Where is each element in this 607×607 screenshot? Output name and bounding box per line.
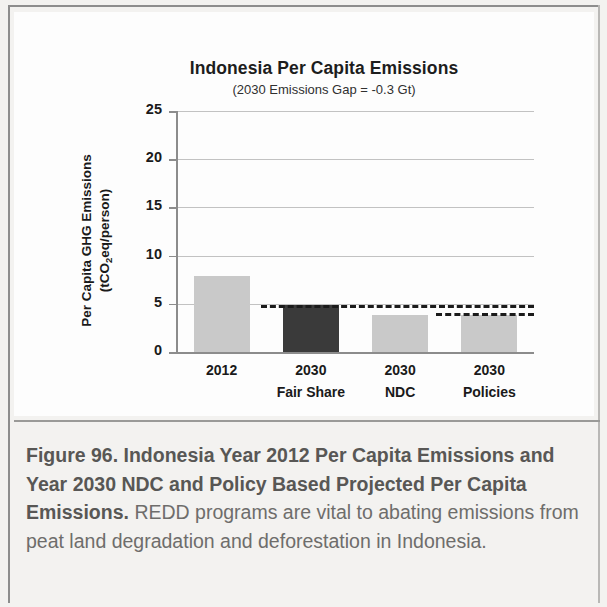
x-label-0-line-0: 2012 [177, 360, 266, 382]
x-label-2-line-0: 2030 [356, 360, 445, 382]
x-label-0: 2012 [177, 360, 266, 382]
chart-panel: Indonesia Per Capita Emissions (2030 Emi… [14, 12, 594, 416]
x-label-3-line-0: 2030 [445, 360, 534, 382]
y-tick-label-25: 25 [122, 101, 162, 117]
reference-line-policies-level [436, 313, 534, 316]
x-label-1-line-1: Fair Share [266, 382, 355, 404]
y-axis-units-post: eq/person) [98, 189, 113, 258]
page-frame-right [598, 5, 600, 603]
page-frame-left [8, 5, 10, 603]
x-label-1: 2030Fair Share [266, 360, 355, 403]
chart-subtitle: (2030 Emissions Gap = -0.3 Gt) [124, 82, 524, 97]
y-axis-units-subscript: 2 [103, 258, 114, 263]
x-label-2: 2030NDC [356, 360, 445, 403]
y-axis-units-pre: (tCO [98, 263, 113, 292]
y-tick-label-5: 5 [122, 294, 162, 310]
figure-caption: Figure 96. Indonesia Year 2012 Per Capit… [26, 441, 586, 556]
document-page: Indonesia Per Capita Emissions (2030 Emi… [0, 0, 607, 607]
x-label-2-line-1: NDC [356, 382, 445, 404]
y-axis-title: Per Capita GHG Emissions (tCO2eq/person) [78, 116, 115, 366]
panel-divider [14, 420, 600, 422]
x-axis-tick-labels: 20122030Fair Share2030NDC2030Policies [177, 360, 534, 420]
y-tick-label-15: 15 [122, 197, 162, 213]
reference-lines [177, 111, 534, 352]
x-label-3-line-1: Policies [445, 382, 534, 404]
y-axis-title-line1: Per Capita GHG Emissions [79, 154, 94, 327]
chart-title: Indonesia Per Capita Emissions [124, 58, 524, 79]
y-tick-label-0: 0 [122, 342, 162, 358]
y-axis-title-line2: (tCO2eq/person) [97, 116, 116, 366]
reference-line-fair-share-level [261, 305, 534, 308]
page-frame-top [8, 5, 600, 7]
y-tick-label-10: 10 [122, 246, 162, 262]
x-label-3: 2030Policies [445, 360, 534, 403]
x-label-1-line-0: 2030 [266, 360, 355, 382]
y-tick-label-20: 20 [122, 149, 162, 165]
x-axis-line [176, 352, 534, 354]
